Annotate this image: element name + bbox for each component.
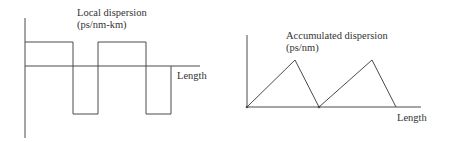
local-dispersion-title: Local dispersion [77,7,147,18]
accumulated-dispersion-title: Accumulated dispersion [286,30,389,41]
accumulated-dispersion-unit: (ps/nm) [286,42,319,54]
local-dispersion-unit: (ps/nm-km) [77,19,127,31]
local-dispersion-plot: Local dispersion (ps/nm-km) Length [25,7,207,138]
accumulated-x-label: Length [397,112,427,123]
dispersion-diagram: Local dispersion (ps/nm-km) Length Accum… [0,0,449,142]
accumulated-dispersion-plot: Accumulated dispersion (ps/nm) Length [246,30,428,123]
trough-dot [318,106,321,109]
square-wave [25,42,171,114]
origin-dot [246,106,249,109]
sawtooth-wave [247,60,396,107]
local-x-label: Length [177,70,207,81]
